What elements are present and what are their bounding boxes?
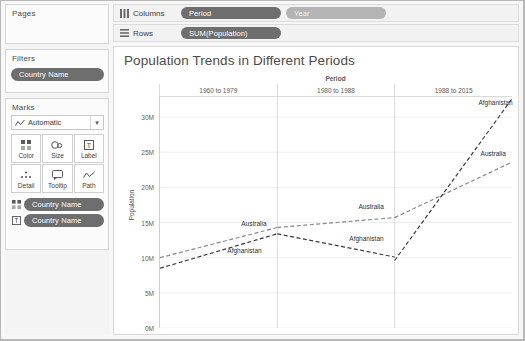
mark-label-australia: Australia <box>359 202 384 209</box>
left-side-panel: Pages Filters Country Name Marks Automat… <box>5 4 109 335</box>
y-tick-label: 20M <box>141 184 154 191</box>
columns-shelf-label: Columns <box>133 9 181 18</box>
size-button[interactable]: Size <box>42 134 72 163</box>
path-button[interactable]: Path <box>74 164 104 193</box>
visualization-pane: Population Trends in Different Periods P… <box>113 46 519 335</box>
mark-label-afghanistan: Afghanistan <box>227 246 261 253</box>
tooltip-button-label: Tooltip <box>48 182 67 189</box>
marks-card-title: Marks <box>6 99 108 114</box>
filters-card: Filters Country Name <box>5 49 109 93</box>
worksheet-right-area: Columns Period Year Rows SUM(Population)… <box>113 4 519 335</box>
rows-shelf-label: Rows <box>133 29 181 38</box>
shelf-pill-year[interactable]: Year <box>286 7 386 19</box>
size-circles-icon <box>51 139 63 151</box>
columns-shelf-pills: Period Year <box>181 7 386 19</box>
label-button-label: Label <box>81 152 97 159</box>
path-button-label: Path <box>82 182 95 189</box>
pages-card: Pages <box>5 4 109 44</box>
color-squares-icon[interactable] <box>11 199 22 210</box>
tooltip-bubble-icon <box>52 169 63 181</box>
svg-text:T: T <box>15 217 19 224</box>
y-tick-label: 25M <box>141 149 154 156</box>
y-axis-ticks: 0M5M10M15M20M25M30M <box>126 96 156 328</box>
mark-label-afghanistan: Afghanistan <box>478 98 512 105</box>
mark-type-label: Automatic <box>28 118 90 127</box>
mark-type-dropdown[interactable]: Automatic ▼ <box>11 115 104 130</box>
marks-pill-label-row: T Country Name <box>11 214 104 227</box>
marks-pill-country-name-label[interactable]: Country Name <box>24 214 104 227</box>
shelf-pill-sum-population[interactable]: SUM(Population) <box>181 27 281 39</box>
tooltip-button[interactable]: Tooltip <box>42 164 72 193</box>
plot-svg <box>160 96 512 328</box>
detail-button-label: Detail <box>18 182 35 189</box>
label-button[interactable]: T Label <box>74 134 104 163</box>
marks-card: Marks Automatic ▼ <box>5 98 109 250</box>
filters-card-title: Filters <box>6 50 108 65</box>
pages-card-title: Pages <box>6 5 108 20</box>
columns-shelf[interactable]: Columns Period Year <box>113 4 519 22</box>
chart-area: Period 1960 to 19791980 to 19881988 to 2… <box>114 75 518 334</box>
chevron-down-icon[interactable]: ▼ <box>90 116 103 129</box>
period-header-1[interactable]: 1980 to 1988 <box>277 84 395 96</box>
columns-icon <box>118 9 130 18</box>
series-line-afghanistan <box>395 99 512 261</box>
plot-region: AustraliaAfghanistanAustraliaAfghanistan… <box>159 96 512 328</box>
mark-label-australia: Australia <box>241 220 266 227</box>
filter-pill-country-name[interactable]: Country Name <box>11 68 104 81</box>
color-button-label: Color <box>18 152 34 159</box>
y-tick-label: 30M <box>141 114 154 121</box>
series-line-australia <box>395 162 512 218</box>
label-tag-icon[interactable]: T <box>11 215 22 226</box>
rows-shelf-pills: SUM(Population) <box>181 27 281 39</box>
column-field-label-period: Period <box>159 75 512 82</box>
page-title: Population Trends in Different Periods <box>124 53 355 68</box>
color-button[interactable]: Color <box>11 134 41 163</box>
period-header-0[interactable]: 1960 to 1979 <box>159 84 277 96</box>
path-line-icon <box>83 169 95 181</box>
marks-pill-country-name-color[interactable]: Country Name <box>24 198 104 211</box>
period-header-2[interactable]: 1988 to 2015 <box>394 84 512 96</box>
marks-pill-list: Country Name T Country Name <box>11 198 104 230</box>
shelf-pill-period[interactable]: Period <box>181 7 281 19</box>
y-tick-label: 0M <box>145 325 154 332</box>
tableau-worksheet-window: Pages Filters Country Name Marks Automat… <box>0 0 525 341</box>
y-tick-label: 5M <box>145 289 154 296</box>
label-tag-icon: T <box>84 139 94 151</box>
size-button-label: Size <box>51 152 64 159</box>
mark-label-australia: Australia <box>481 149 506 156</box>
marks-pill-color-row: Country Name <box>11 198 104 211</box>
y-tick-label: 15M <box>141 219 154 226</box>
y-tick-label: 10M <box>141 254 154 261</box>
mark-property-buttons: Color Size T <box>11 134 104 193</box>
svg-text:T: T <box>87 141 92 148</box>
rows-icon <box>118 29 130 38</box>
mark-label-afghanistan: Afghanistan <box>349 235 383 242</box>
color-squares-icon <box>21 139 31 151</box>
detail-dots-icon <box>20 169 32 181</box>
line-chart-icon <box>15 119 25 127</box>
detail-button[interactable]: Detail <box>11 164 41 193</box>
rows-shelf[interactable]: Rows SUM(Population) <box>113 24 519 42</box>
